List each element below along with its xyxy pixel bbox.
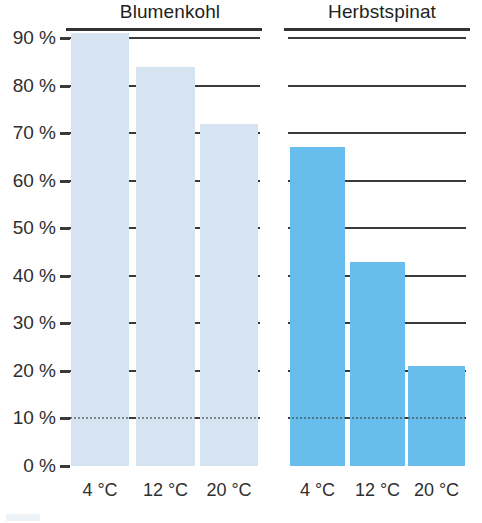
bar-1-1: [350, 262, 405, 466]
dashed-gridline-10-1: [288, 417, 466, 419]
y-tick-mark-20: [60, 370, 70, 373]
y-tick-label-30: 30 %: [0, 313, 56, 332]
group-title-blumenkohl: Blumenkohl: [60, 1, 280, 23]
y-tick-label-50: 50 %: [0, 218, 56, 237]
y-tick-label-90: 90 %: [0, 28, 56, 47]
plot-area: 90 %80 %70 %60 %50 %40 %30 %20 %10 %0 % …: [0, 28, 482, 474]
y-tick-label-80: 80 %: [0, 76, 56, 95]
scan-artifact: [6, 514, 40, 521]
gridline-70-g1: [288, 132, 466, 134]
y-tick-mark-40: [60, 275, 70, 278]
y-tick-mark-50: [60, 227, 70, 230]
gridline-90-g1: [288, 37, 466, 39]
bar-0-2: [200, 124, 258, 466]
y-tick-mark-60: [60, 180, 70, 183]
y-tick-mark-80: [60, 85, 70, 88]
dashed-gridline-10-0: [70, 417, 260, 419]
bar-chart: Blumenkohl Herbstspinat 90 %80 %70 %60 %…: [0, 0, 482, 523]
y-tick-mark-70: [60, 132, 70, 135]
y-tick-mark-10: [60, 417, 70, 420]
y-tick-label-10: 10 %: [0, 408, 56, 427]
y-tick-label-60: 60 %: [0, 171, 56, 190]
group-title-herbstspinat: Herbstspinat: [282, 1, 482, 23]
y-tick-mark-90: [60, 37, 70, 40]
y-tick-mark-0: [60, 465, 70, 468]
x-tick-label-g0-2: 20 °C: [189, 480, 269, 500]
bar-1-2: [408, 366, 465, 466]
y-tick-label-40: 40 %: [0, 266, 56, 285]
x-tick-label-g1-2: 20 °C: [397, 480, 477, 500]
y-tick-label-0: 0 %: [0, 456, 56, 475]
x-axis-herbstspinat: [284, 28, 470, 31]
bar-0-1: [136, 67, 195, 466]
gridline-80-g1: [288, 85, 466, 87]
bar-0-0: [71, 33, 129, 466]
x-axis-blumenkohl: [66, 28, 262, 31]
y-tick-mark-30: [60, 322, 70, 325]
y-tick-label-20: 20 %: [0, 361, 56, 380]
y-tick-label-70: 70 %: [0, 123, 56, 142]
